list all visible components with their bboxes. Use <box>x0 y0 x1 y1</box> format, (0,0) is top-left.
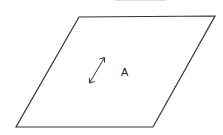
double-arrow-icon <box>90 58 105 84</box>
diagram-canvas: A <box>0 0 223 135</box>
parallelogram-plane <box>16 16 215 127</box>
plane-label: A <box>121 66 129 78</box>
